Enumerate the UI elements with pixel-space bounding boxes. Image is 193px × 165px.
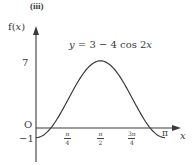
x-tick-pi: π — [162, 129, 168, 138]
y-axis-label: f(x) — [8, 22, 25, 32]
x-tick-pi-over-4-num: π — [66, 131, 70, 137]
x-tick-pi-over-2-den: 2 — [99, 140, 103, 146]
part-label: (iii) — [30, 2, 44, 11]
origin-label: O — [24, 120, 32, 130]
x-tick-pi-over-4-den: 4 — [66, 140, 70, 146]
x-tick-3pi-over-4: 3π 4 — [128, 131, 136, 146]
equation-x: x — [146, 39, 152, 50]
x-tick-pi-over-2-num: π — [99, 131, 103, 137]
x-axis-label: x — [180, 131, 186, 141]
y-axis-arrow-icon — [33, 26, 39, 35]
equation-label: y = 3 − 4 cos 2x — [69, 40, 152, 50]
x-axis-label-x: x — [180, 130, 186, 141]
y-tick-neg1: −1 — [19, 134, 34, 144]
y-axis-label-f: f( — [8, 21, 16, 32]
x-tick-3pi-over-4-num: 3π — [128, 131, 136, 137]
y-axis-label-close: ) — [21, 21, 25, 32]
x-tick-pi-over-4: π 4 — [64, 131, 71, 146]
x-tick-pi-over-2: π 2 — [97, 131, 104, 146]
curve-series — [36, 61, 165, 138]
y-tick-7: 7 — [22, 58, 28, 68]
x-tick-3pi-over-4-den: 4 — [130, 140, 134, 146]
equation-body: = 3 − 4 cos 2 — [75, 39, 147, 50]
